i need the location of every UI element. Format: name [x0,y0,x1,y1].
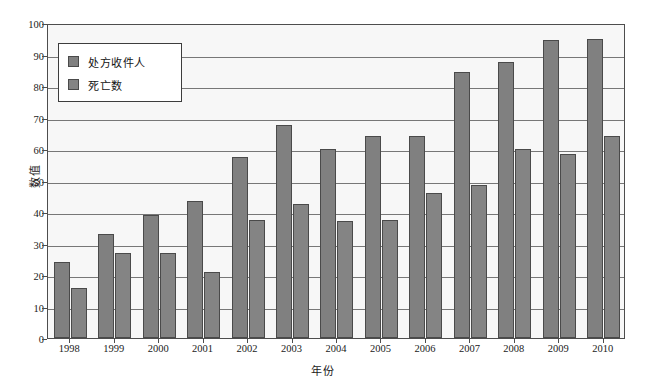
bar[interactable] [71,288,87,338]
bar-group [404,25,448,338]
x-tick-mark [203,339,204,343]
bar[interactable] [515,149,531,338]
y-tick-label: 70 [10,113,44,124]
bar-group [582,25,626,338]
bar[interactable] [160,253,176,338]
y-tick-mark [42,119,47,120]
y-tick-mark [42,56,47,57]
x-tick-mark [247,339,248,343]
bar[interactable] [587,39,603,338]
y-tick-mark [42,213,47,214]
x-tick-mark [69,339,70,343]
x-tick-label: 1998 [59,343,80,354]
y-tick-label: 100 [10,19,44,30]
bar[interactable] [543,40,559,338]
y-tick-label: 0 [10,334,44,345]
y-tick-label: 30 [10,239,44,250]
y-tick-label: 90 [10,50,44,61]
x-tick-label: 2006 [414,343,435,354]
x-tick-label: 2009 [548,343,569,354]
bar-chart: 数值 0102030405060708090100 19981999200020… [0,0,646,392]
x-tick-mark [558,339,559,343]
x-tick-mark [336,339,337,343]
x-tick-label: 2005 [370,343,391,354]
y-tick-label: 20 [10,271,44,282]
x-tick-label: 2003 [281,343,302,354]
x-tick-label: 2008 [503,343,524,354]
y-tick-mark [42,276,47,277]
legend-label: 死亡数 [88,77,123,93]
x-tick-label: 1999 [103,343,124,354]
bar[interactable] [54,262,70,338]
x-tick-mark [469,339,470,343]
x-tick-label: 2001 [192,343,213,354]
bar[interactable] [382,220,398,338]
x-axis-title: 年份 [0,362,646,378]
x-tick-label: 2010 [592,343,613,354]
bar[interactable] [604,136,620,338]
x-tick-mark [514,339,515,343]
bar[interactable] [498,62,514,338]
x-tick-label: 2007 [459,343,480,354]
bar[interactable] [143,215,159,338]
y-tick-mark [42,150,47,151]
bar-group [315,25,359,338]
x-tick-label: 2000 [148,343,169,354]
bar-group [181,25,225,338]
bar-group [270,25,314,338]
bar[interactable] [320,149,336,338]
legend-item[interactable]: 死亡数 [68,74,181,95]
legend-swatch-icon [68,79,79,90]
y-tick-mark [42,245,47,246]
legend-label: 处方收件人 [88,54,146,70]
bar[interactable] [293,204,309,338]
y-tick-mark [42,24,47,25]
legend-swatch-icon [68,56,79,67]
x-tick-mark [425,339,426,343]
y-tick-mark [42,87,47,88]
x-tick-mark [114,339,115,343]
bar[interactable] [187,201,203,338]
y-tick-mark [42,308,47,309]
bar[interactable] [204,272,220,338]
x-tick-label: 2002 [237,343,258,354]
y-tick-label: 40 [10,208,44,219]
y-tick-label: 60 [10,145,44,156]
legend: 处方收件人 死亡数 [58,43,182,102]
x-tick-label: 2004 [326,343,347,354]
bar[interactable] [276,125,292,338]
bar[interactable] [471,185,487,338]
bar[interactable] [249,220,265,338]
bar[interactable] [426,193,442,338]
bar[interactable] [560,154,576,338]
x-tick-mark [380,339,381,343]
bar[interactable] [115,253,131,338]
y-tick-label: 10 [10,302,44,313]
bar-group [448,25,492,338]
x-tick-mark [158,339,159,343]
bar-group [359,25,403,338]
y-tick-label: 80 [10,82,44,93]
y-tick-label: 50 [10,176,44,187]
bar[interactable] [337,221,353,338]
bar[interactable] [409,136,425,338]
bar-group [537,25,581,338]
bar-group [493,25,537,338]
y-tick-mark [42,182,47,183]
y-tick-mark [42,339,47,340]
bar[interactable] [365,136,381,338]
bar[interactable] [232,157,248,338]
x-tick-mark [603,339,604,343]
x-tick-mark [292,339,293,343]
bar[interactable] [98,234,114,338]
bar[interactable] [454,72,470,338]
legend-item[interactable]: 处方收件人 [68,51,181,72]
bar-group [226,25,270,338]
